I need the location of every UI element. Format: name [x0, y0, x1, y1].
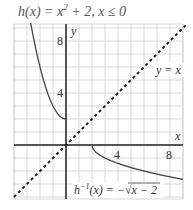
y-tick-8: 8 — [57, 34, 63, 48]
y-axis-label: y — [70, 24, 77, 38]
x-axis-label: x — [174, 129, 181, 143]
x-tick-8: 8 — [166, 148, 172, 162]
x-tick-4: 4 — [114, 148, 120, 162]
identity-label: y = x — [155, 63, 181, 77]
y-tick-4: 4 — [57, 86, 63, 100]
plot-area: x y 4 8 4 8 y = x h−1(x) = −√x − 2 — [0, 0, 193, 210]
